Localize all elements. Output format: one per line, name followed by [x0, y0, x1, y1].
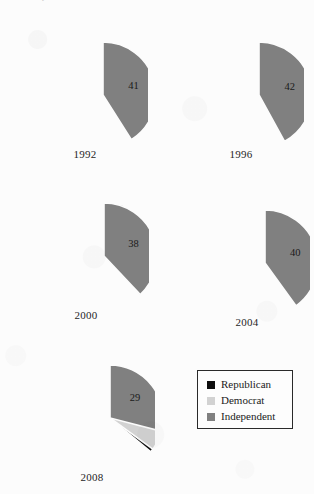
slice-value-1992-independent: 41: [128, 80, 139, 91]
legend-item-democrat: Democrat: [207, 393, 292, 408]
cut-off-title-text: Party Identification of the American Ele…: [26, 0, 213, 1]
chart-legend: RepublicanDemocratIndependent: [197, 370, 293, 429]
cut-off-title-sliver: Party Identification of the American Ele…: [0, 0, 314, 7]
pie-chart-1992: 2930411992: [22, 18, 148, 144]
slice-value-2000-independent: 38: [128, 238, 139, 249]
legend-item-republican: Republican: [207, 377, 292, 392]
legend-label-republican: Republican: [221, 379, 271, 390]
pie-chart-1996: 3028421996: [178, 18, 304, 144]
pie-chart-2000: 3824382000: [23, 179, 149, 305]
slice-value-2008-independent: 29: [130, 392, 141, 403]
slice-value-2004-independent: 40: [290, 247, 301, 258]
pie-svg-2000: 382438: [23, 179, 149, 305]
pie-slice-2004-independent: [265, 210, 310, 306]
republican-swatch: [207, 381, 215, 389]
pie-year-label-1996: 1996: [178, 148, 304, 160]
pie-svg-2008: 363529: [29, 341, 155, 467]
legend-label-democrat: Democrat: [221, 395, 264, 406]
pie-slice-1996-independent: [259, 42, 304, 141]
pie-chart-2004: 3426402004: [184, 186, 310, 312]
pie-chart-2008: 3635292008: [29, 341, 155, 467]
legend-item-independent: Independent: [207, 409, 292, 424]
pie-year-label-2008: 2008: [29, 471, 155, 483]
pie-year-label-1992: 1992: [22, 148, 148, 160]
figure-page: Party Identification of the American Ele…: [0, 0, 314, 494]
democrat-swatch: [207, 397, 215, 405]
pie-svg-1996: 302842: [178, 18, 304, 144]
slice-value-1996-independent: 42: [285, 81, 296, 92]
independent-swatch: [207, 413, 215, 421]
legend-label-independent: Independent: [221, 411, 275, 422]
pie-slice-1992-independent: [103, 42, 148, 140]
pie-svg-2004: 342640: [184, 186, 310, 312]
pie-year-label-2004: 2004: [184, 316, 310, 328]
pie-year-label-2000: 2000: [23, 309, 149, 321]
pie-svg-1992: 293041: [22, 18, 148, 144]
pie-slice-2000-independent: [104, 203, 149, 295]
